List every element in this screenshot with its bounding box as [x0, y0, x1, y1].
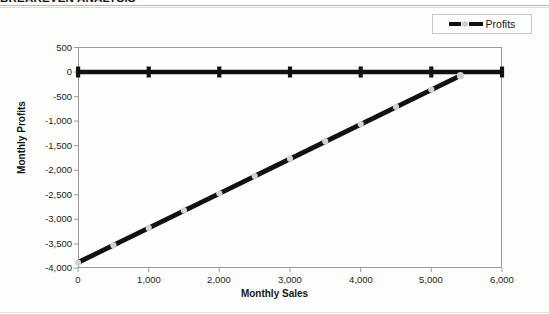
x-axis-title: Monthly Sales	[0, 288, 549, 299]
x-tick-label: 0	[48, 275, 108, 285]
scan-edge-artifact	[0, 312, 549, 313]
x-tick-label: 1,000	[119, 275, 179, 285]
y-axis-title: Monthly Profits	[16, 73, 27, 203]
x-tick-label: 4,000	[331, 275, 391, 285]
x-axis-tick-labels: 0 1,000 2,000 3,000 4,000 5,000 6,000	[0, 0, 549, 314]
x-tick-label: 6,000	[472, 275, 532, 285]
x-tick-label: 3,000	[260, 275, 320, 285]
chart-page: BREAKEVEN ANALYSIS Profits	[0, 0, 549, 314]
x-tick-label: 2,000	[189, 275, 249, 285]
x-tick-label: 5,000	[401, 275, 461, 285]
